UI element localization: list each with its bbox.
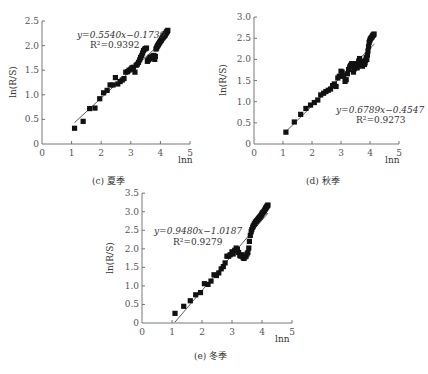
x-tick-label: 3	[338, 148, 344, 158]
chart-panel-autumn: 01234500.51.01.52.02.53.0y=0.6789x−0.454…	[218, 12, 424, 186]
y-tick-label: 0.5	[237, 118, 252, 128]
regression-equation: y=0.6789x−0.4547	[335, 105, 424, 115]
data-point	[303, 106, 308, 111]
y-tick-label: 2.0	[25, 41, 40, 51]
data-point	[72, 126, 77, 131]
data-point	[333, 84, 338, 89]
data-point	[245, 250, 250, 255]
x-axis-label: lnn	[178, 155, 193, 165]
x-axis-label: lnn	[385, 155, 400, 165]
x-tick-label: 4	[158, 148, 164, 158]
x-tick-label: 2	[309, 148, 315, 158]
y-tick-label: 1.5	[125, 262, 140, 272]
data-point	[105, 88, 110, 93]
x-tick-label: 5	[289, 327, 295, 337]
y-tick-label: 1.5	[237, 76, 252, 86]
data-point	[144, 45, 149, 50]
data-point	[315, 97, 320, 102]
data-point	[246, 245, 251, 250]
y-axis-label: ln(R/S)	[218, 64, 228, 96]
data-point	[371, 31, 376, 36]
y-tick-label: 3.5	[125, 188, 140, 198]
data-point	[283, 130, 288, 135]
y-tick-label: 1.0	[237, 97, 252, 107]
x-tick-label: 2	[199, 327, 205, 337]
data-point	[113, 75, 118, 80]
data-point	[87, 106, 92, 111]
data-point	[193, 292, 198, 297]
data-point	[153, 54, 158, 59]
chart-panel-summer: 01234500.51.01.52.02.5y=0.5540x−0.1739R²…	[8, 16, 193, 186]
x-tick-label: 3	[128, 148, 134, 158]
data-point	[265, 202, 270, 207]
scatter-points	[172, 202, 270, 316]
x-tick-label: 0	[251, 148, 257, 158]
y-tick-label: 2.5	[125, 225, 140, 235]
y-tick-label: 3.0	[237, 12, 252, 22]
y-tick-label: 1.0	[25, 90, 40, 100]
r-squared: R²=0.9279	[173, 237, 223, 247]
x-tick-label: 1	[69, 148, 75, 158]
y-tick-label: 1.5	[25, 65, 40, 75]
data-point	[198, 290, 203, 295]
r-squared: R²=0.9273	[356, 115, 406, 125]
y-tick-label: 0	[33, 139, 39, 149]
x-tick-label: 2	[98, 148, 104, 158]
y-tick-label: 3.0	[125, 207, 140, 217]
y-tick-label: 2.5	[25, 16, 40, 26]
x-tick-label: 4	[259, 327, 265, 337]
regression-equation: y=0.9480x−1.0187	[153, 226, 242, 236]
data-point	[292, 119, 297, 124]
y-tick-label: 1.0	[125, 281, 140, 291]
y-tick-label: 0	[133, 318, 139, 328]
x-tick-label: 0	[39, 148, 45, 158]
panel-caption: (c) 夏季	[92, 175, 125, 186]
data-point	[247, 239, 252, 244]
y-axis-label: ln(R/S)	[105, 242, 115, 274]
data-point	[172, 311, 177, 316]
data-point	[344, 77, 349, 82]
x-axis-label: lnn	[275, 334, 290, 344]
y-tick-label: 2.5	[237, 33, 252, 43]
y-tick-label: 0	[245, 139, 251, 149]
data-point	[132, 70, 137, 75]
data-point	[223, 260, 228, 265]
panel-caption: (e) 冬季	[194, 350, 227, 361]
x-tick-label: 4	[367, 148, 373, 158]
y-tick-label: 0.5	[25, 114, 40, 124]
panel-caption: (d) 秋季	[306, 175, 340, 186]
x-tick-label: 0	[139, 327, 145, 337]
data-point	[97, 96, 102, 101]
data-point	[181, 304, 186, 309]
x-tick-label: 1	[169, 327, 175, 337]
regression-equation: y=0.5540x−0.1739	[76, 30, 165, 40]
data-point	[188, 298, 193, 303]
r-squared: R²=0.9392	[90, 40, 139, 50]
y-tick-label: 2.0	[237, 54, 252, 64]
data-point	[92, 105, 97, 110]
data-point	[121, 76, 126, 81]
data-point	[81, 119, 86, 124]
data-point	[165, 28, 170, 33]
data-point	[208, 278, 213, 283]
y-tick-label: 0.5	[125, 299, 140, 309]
data-point	[110, 82, 115, 87]
chart-panel-winter: 01234500.51.01.52.02.53.03.5y=0.9480x−1.…	[105, 188, 295, 361]
y-axis-label: ln(R/S)	[8, 66, 18, 98]
x-tick-label: 1	[280, 148, 286, 158]
y-tick-label: 2.0	[125, 244, 140, 254]
x-tick-label: 3	[229, 327, 235, 337]
data-point	[298, 112, 303, 117]
figure-canvas: 01234500.51.01.52.02.5y=0.5540x−0.1739R²…	[0, 0, 428, 374]
